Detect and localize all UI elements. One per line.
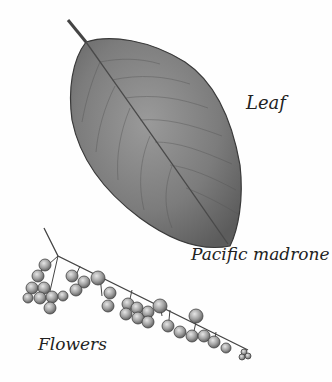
botanical-illustration: Leaf Pacific madrone Flowers: [0, 0, 332, 382]
leaf-label: Leaf: [246, 92, 286, 113]
species-label: Pacific madrone: [191, 244, 330, 264]
flowers-label: Flowers: [38, 334, 107, 354]
illustration-art: [0, 0, 332, 382]
leaf-drawing: [68, 20, 241, 248]
